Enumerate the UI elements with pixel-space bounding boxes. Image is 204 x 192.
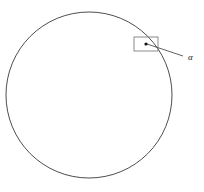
figure-background — [0, 0, 204, 192]
alpha-label: α — [188, 52, 193, 62]
figure-canvas: α — [0, 0, 204, 192]
marked-point — [144, 42, 147, 45]
figure-root: α — [0, 0, 204, 192]
